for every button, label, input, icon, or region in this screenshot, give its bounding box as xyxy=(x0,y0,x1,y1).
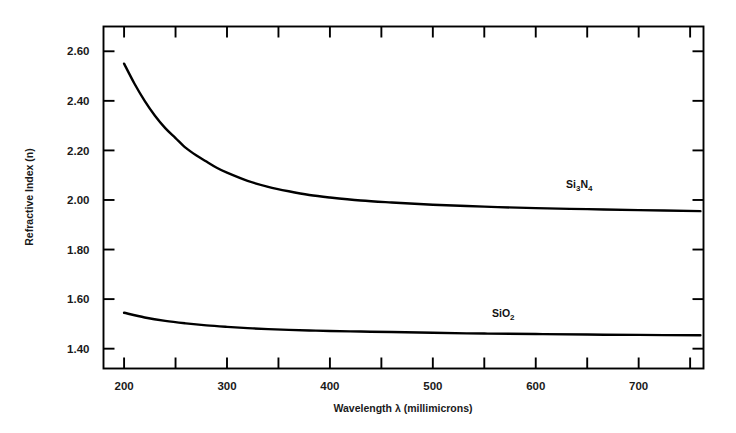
x-tick-label: 200 xyxy=(114,380,133,392)
y-tick-label: 2.20 xyxy=(67,145,89,157)
y-tick-label: 2.40 xyxy=(67,95,89,107)
y-tick-label: 2.00 xyxy=(67,194,89,206)
x-tick-label: 300 xyxy=(217,380,236,392)
x-tick-label: 700 xyxy=(629,380,648,392)
chart-figure: 2.602.402.202.001.801.601.40 20030040050… xyxy=(0,0,736,433)
x-tick-label: 400 xyxy=(320,380,339,392)
x-tick-label: 600 xyxy=(526,380,545,392)
refractive-index-line-chart: 2.602.402.202.001.801.601.40 20030040050… xyxy=(0,0,736,433)
x-tick-label: 500 xyxy=(423,380,442,392)
y-tick-label: 1.40 xyxy=(67,343,89,355)
x-axis-title: Wavelength λ (millimicrons) xyxy=(333,402,472,414)
y-tick-label: 2.60 xyxy=(67,45,89,57)
y-tick-label: 1.60 xyxy=(67,293,89,305)
y-tick-label: 1.80 xyxy=(67,244,89,256)
y-axis-title: Refractive Index (n) xyxy=(23,148,35,245)
